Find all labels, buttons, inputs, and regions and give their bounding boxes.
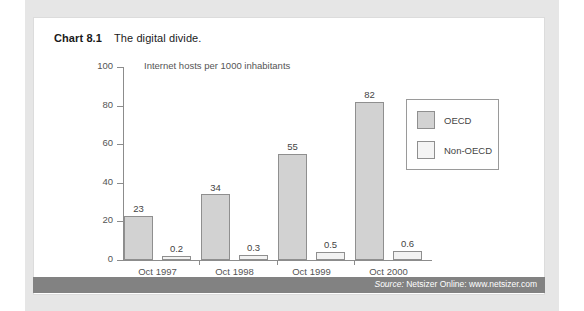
plot-area: Internet hosts per 1000 inhabitants 0 20…: [34, 18, 546, 296]
x-axis-label-2000: Oct 2000: [353, 266, 424, 277]
y-tick-label: 60: [102, 137, 113, 148]
bar-value-non-oecd-1997: 0.2: [162, 243, 191, 254]
y-tick-20: 20: [34, 221, 123, 222]
bar-value-oecd-1998: 34: [201, 182, 230, 193]
x-tick: [199, 260, 200, 265]
bar-oecd-1998: [201, 194, 230, 260]
y-tick-label: 80: [102, 99, 113, 110]
bar-value-non-oecd-1998: 0.3: [239, 242, 268, 253]
x-tick: [277, 260, 278, 265]
bar-oecd-1999: [278, 154, 307, 260]
bar-non-oecd-1997: [162, 256, 191, 260]
legend-item-oecd: OECD: [417, 111, 471, 129]
y-tick-label: 20: [102, 214, 113, 225]
legend-label-oecd: OECD: [444, 115, 471, 126]
bar-value-non-oecd-1999: 0.5: [316, 239, 345, 250]
bar-oecd-1997: [124, 216, 153, 260]
y-tick-0: 0: [34, 260, 123, 261]
bar-oecd-2000: [355, 102, 384, 260]
y-tick-40: 40: [34, 183, 123, 184]
bar-non-oecd-1999: [316, 252, 345, 261]
bar-value-oecd-2000: 82: [355, 89, 384, 100]
chart-legend: OECD Non-OECD: [406, 99, 499, 170]
y-tick-label: 40: [102, 176, 113, 187]
y-tick-80: 80: [34, 106, 123, 107]
y-tick-label: 100: [97, 60, 113, 71]
chart-figure-page: Chart 8.1The digital divide. Internet ho…: [0, 0, 584, 311]
figure-card: Chart 8.1The digital divide. Internet ho…: [33, 17, 545, 295]
source-lead: Source:: [374, 279, 403, 289]
x-axis-label-1999: Oct 1999: [276, 266, 347, 277]
source-credit: Source: Netsizer Online: www.netsizer.co…: [374, 279, 537, 289]
y-tick-100: 100: [34, 67, 123, 68]
source-bar: Source: Netsizer Online: www.netsizer.co…: [33, 277, 545, 293]
x-tick: [354, 260, 355, 265]
bar-value-oecd-1999: 55: [278, 141, 307, 152]
bar-non-oecd-1998: [239, 255, 268, 261]
y-tick-60: 60: [34, 144, 123, 145]
legend-swatch-non-oecd: [417, 141, 435, 159]
bar-non-oecd-2000: [393, 251, 422, 261]
legend-swatch-oecd: [417, 111, 435, 129]
bar-value-oecd-1997: 23: [124, 203, 153, 214]
bar-value-non-oecd-2000: 0.6: [393, 238, 422, 249]
x-axis-label-1997: Oct 1997: [122, 266, 193, 277]
plot-subtitle: Internet hosts per 1000 inhabitants: [144, 60, 290, 71]
legend-label-non-oecd: Non-OECD: [444, 145, 492, 156]
source-value: Netsizer Online: www.netsizer.com: [406, 279, 537, 289]
y-tick-label: 0: [108, 253, 113, 264]
legend-item-non-oecd: Non-OECD: [417, 141, 492, 159]
x-axis-label-1998: Oct 1998: [199, 266, 270, 277]
